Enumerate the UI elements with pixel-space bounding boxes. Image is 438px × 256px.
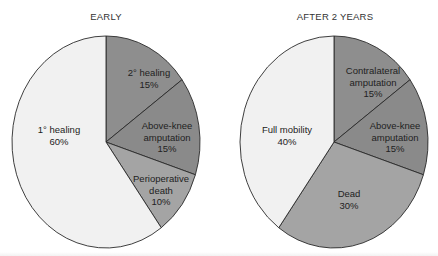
label-line: amputation [370, 131, 421, 143]
page-edge [0, 252, 438, 256]
slice-label-above-knee-amputation-2yr: Above-knee amputation 15% [370, 120, 421, 155]
label-line: 2° healing [128, 67, 170, 79]
slice-label-secondary-healing: 2° healing 15% [128, 67, 170, 90]
label-value: 40% [262, 135, 312, 147]
label-line: amputation [142, 131, 193, 143]
label-line: Contralateral [346, 65, 400, 77]
label-value: 15% [128, 78, 170, 90]
label-value: 30% [338, 199, 361, 211]
label-line: Full mobility [262, 124, 312, 136]
label-line: Perioperative [133, 173, 189, 185]
label-line: Dead [338, 188, 361, 200]
label-line: Above-knee [142, 120, 193, 132]
label-line: 1° healing [38, 124, 80, 136]
slice-label-primary-healing: 1° healing 60% [38, 124, 80, 147]
label-value: 10% [133, 196, 189, 208]
slice-label-perioperative-death: Perioperative death 10% [133, 173, 189, 208]
label-value: 15% [346, 88, 400, 100]
label-line: amputation [346, 76, 400, 88]
label-value: 15% [370, 143, 421, 155]
slice-label-full-mobility: Full mobility 40% [262, 124, 312, 147]
slice-label-dead: Dead 30% [338, 188, 361, 211]
slice-label-contralateral-amputation: Contralateral amputation 15% [346, 65, 400, 100]
slice-label-above-knee-amputation-early: Above-knee amputation 15% [142, 120, 193, 155]
label-value: 15% [142, 143, 193, 155]
label-line: death [133, 184, 189, 196]
label-line: Above-knee [370, 120, 421, 132]
label-value: 60% [38, 135, 80, 147]
